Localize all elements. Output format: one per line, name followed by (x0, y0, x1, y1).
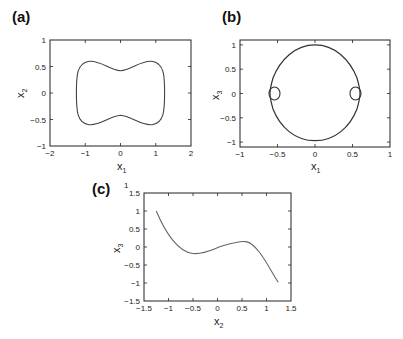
svg-text:−0.5: −0.5 (220, 114, 236, 123)
axes-box-c (144, 193, 291, 301)
svg-text:−0.5: −0.5 (270, 150, 286, 159)
y-axis-label-b: x3 (209, 91, 223, 101)
stray-tick-label-c: 1 (124, 181, 129, 190)
outer-oval-b (270, 45, 360, 141)
svg-text:0: 0 (232, 90, 237, 99)
svg-text:−1: −1 (37, 142, 47, 151)
svg-text:0: 0 (42, 89, 47, 98)
svg-text:−1: −1 (235, 150, 245, 159)
x-axis-label-b: x1 (311, 160, 321, 174)
svg-text:−0.5: −0.5 (30, 116, 46, 125)
svg-text:−0.5: −0.5 (124, 261, 140, 270)
svg-text:1: 1 (232, 41, 237, 50)
x-axis-label-a: x1 (117, 160, 127, 174)
y-axis-label-a: x2 (14, 89, 28, 99)
svg-text:−1: −1 (227, 138, 237, 147)
axes-box-a (50, 40, 191, 146)
svg-text:−2: −2 (45, 149, 55, 158)
svg-text:1: 1 (136, 207, 141, 216)
figure-canvas: −2−1012 10.50−0.5−1 x1 x2 −1−0.500.51 10… (0, 0, 403, 339)
axes-box-b (240, 40, 390, 147)
svg-text:0.5: 0.5 (129, 225, 141, 234)
svg-text:1: 1 (388, 150, 393, 159)
svg-text:−0.5: −0.5 (185, 304, 201, 313)
chart-c: −1.5−1−0.500.511.5 1.510.50−0.5−1−1.5 1 … (110, 181, 297, 329)
svg-text:0: 0 (313, 150, 318, 159)
y-axis-label-c: x3 (110, 244, 124, 254)
svg-text:1.5: 1.5 (129, 189, 141, 198)
chart-b: −1−0.500.51 10.50−0.5−1 x1 x3 (209, 40, 393, 174)
orbit-curve-a (76, 61, 164, 125)
svg-text:1: 1 (264, 304, 269, 313)
svg-text:0.5: 0.5 (236, 304, 248, 313)
svg-text:0: 0 (118, 149, 123, 158)
svg-text:0.5: 0.5 (347, 150, 359, 159)
loop-right-b (350, 87, 361, 100)
svg-text:0.5: 0.5 (225, 65, 237, 74)
svg-text:1: 1 (42, 36, 47, 45)
svg-text:−1: −1 (164, 304, 174, 313)
svg-text:−1: −1 (131, 279, 141, 288)
svg-text:0: 0 (136, 243, 141, 252)
svg-text:1: 1 (154, 149, 159, 158)
svg-text:0.5: 0.5 (35, 63, 47, 72)
loop-left-b (269, 87, 280, 100)
svg-text:1.5: 1.5 (285, 304, 297, 313)
svg-text:−1.5: −1.5 (124, 297, 140, 306)
cubic-curve-c (156, 211, 278, 282)
svg-text:0: 0 (215, 304, 220, 313)
svg-text:2: 2 (189, 149, 194, 158)
chart-a: −2−1012 10.50−0.5−1 x1 x2 (14, 36, 194, 174)
x-axis-label-c: x2 (214, 315, 224, 329)
svg-text:−1: −1 (81, 149, 91, 158)
